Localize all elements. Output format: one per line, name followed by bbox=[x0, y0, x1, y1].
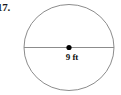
center-point-dot bbox=[66, 45, 71, 50]
circle-diagram bbox=[0, 0, 121, 95]
geometry-figure: 17. 9 ft bbox=[0, 0, 121, 95]
diameter-measurement-label: 9 ft bbox=[60, 52, 84, 63]
